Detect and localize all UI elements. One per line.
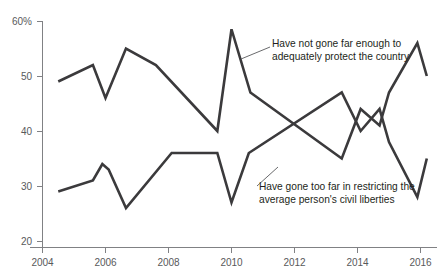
x-axis-ticks (43, 248, 421, 254)
series-label-gone-too-far-line1: Have gone too far in restricting the (259, 181, 415, 192)
series-label-not-gone-far-enough: Have not gone far enough to adequately p… (272, 38, 410, 62)
x-tick-label-2010: 2010 (220, 257, 243, 268)
chart-plot-area: 60%50403020 2004200620082010201220142016… (0, 0, 442, 280)
x-tick-label-2006: 2006 (94, 257, 117, 268)
series-label-not-gone-far-enough-line2: adequately protect the country (272, 51, 410, 62)
x-tick-label-2016: 2016 (409, 257, 432, 268)
series-label-not-gone-far-enough-line1: Have not gone far enough to (272, 38, 401, 49)
y-tick-label-50: 50 (21, 71, 33, 82)
y-axis-tick-labels: 60%50403020 (12, 16, 32, 247)
y-tick-label-20: 20 (21, 236, 33, 247)
series-label-gone-too-far: Have gone too far in restricting the ave… (259, 181, 415, 205)
x-tick-label-2008: 2008 (157, 257, 180, 268)
y-axis-ticks (37, 21, 43, 241)
x-tick-label-2014: 2014 (346, 257, 369, 268)
y-tick-label-40: 40 (21, 126, 33, 137)
x-tick-label-2004: 2004 (31, 257, 54, 268)
x-axis-tick-labels: 2004200620082010201220142016 (31, 257, 432, 268)
line-chart: 60%50403020 2004200620082010201220142016… (0, 0, 442, 280)
leader-line-not-gone-far-enough (241, 47, 270, 59)
series-label-gone-too-far-line2: average person's civil liberties (259, 194, 395, 205)
y-tick-label-30: 30 (21, 181, 33, 192)
annotation-leader-lines (241, 47, 278, 186)
y-tick-label-60: 60% (12, 16, 32, 27)
x-tick-label-2012: 2012 (283, 257, 306, 268)
